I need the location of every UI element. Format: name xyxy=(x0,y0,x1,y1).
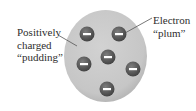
minus-icon xyxy=(83,33,91,35)
minus-icon xyxy=(103,88,111,90)
pudding-label: Positively charged “pudding” xyxy=(17,26,63,64)
pudding-label-line-2: charged xyxy=(17,39,63,52)
electron-1 xyxy=(80,27,95,42)
electron-2 xyxy=(112,27,127,42)
minus-icon xyxy=(129,68,137,70)
electron-4 xyxy=(77,57,92,72)
pudding-label-line-1: Positively xyxy=(17,26,63,39)
plum-pudding-diagram: Positively charged “pudding” Electron “p… xyxy=(0,0,196,111)
minus-icon xyxy=(80,63,88,65)
electron-label-line-2: “plum” xyxy=(153,27,190,40)
electron-label-line-1: Electron xyxy=(153,14,190,27)
electron-6 xyxy=(100,82,115,97)
pudding-label-line-3: “pudding” xyxy=(17,51,63,64)
electron-label: Electron “plum” xyxy=(153,14,190,39)
electron-3 xyxy=(101,50,116,65)
electron-5 xyxy=(126,62,141,77)
minus-icon xyxy=(104,56,112,58)
minus-icon xyxy=(115,33,123,35)
